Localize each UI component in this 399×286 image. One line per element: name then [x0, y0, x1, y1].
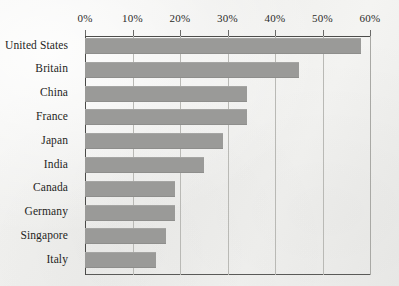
category-label: India	[44, 158, 68, 170]
bar-row	[85, 252, 156, 268]
bar	[85, 133, 223, 149]
bar-row	[85, 109, 247, 125]
category-label: France	[36, 110, 68, 122]
category-label: Germany	[25, 205, 69, 217]
x-tick-label: 0%	[77, 12, 92, 24]
category-label: Singapore	[20, 229, 68, 241]
gridline-50pct	[323, 36, 324, 275]
bar-row	[85, 181, 175, 197]
bar	[85, 252, 156, 268]
bar	[85, 181, 175, 197]
bar-row	[85, 228, 166, 244]
bar	[85, 109, 247, 125]
bar-row	[85, 38, 361, 54]
category-label: China	[40, 86, 68, 98]
category-label: Italy	[46, 253, 68, 265]
bar	[85, 62, 299, 78]
bar-row	[85, 86, 247, 102]
bar-row	[85, 205, 175, 221]
gridline-60pct	[370, 36, 371, 275]
plot-area	[85, 36, 370, 275]
bar-row	[85, 157, 204, 173]
category-label: Britain	[35, 62, 68, 74]
bar	[85, 228, 166, 244]
category-label: United States	[5, 39, 68, 51]
x-tick-label: 50%	[312, 12, 333, 24]
x-tick-label: 30%	[217, 12, 238, 24]
bar	[85, 205, 175, 221]
bar	[85, 86, 247, 102]
bar	[85, 38, 361, 54]
bar-row	[85, 133, 223, 149]
category-label: Canada	[33, 181, 68, 193]
x-tick-label: 60%	[360, 12, 381, 24]
x-tick-label: 20%	[170, 12, 191, 24]
bar-row	[85, 62, 299, 78]
category-label: Japan	[41, 134, 68, 146]
bar	[85, 157, 204, 173]
x-tick-label: 40%	[265, 12, 286, 24]
x-tick-label: 10%	[122, 12, 143, 24]
horizontal-bar-chart: 0%10%20%30%40%50%60% United StatesBritai…	[0, 0, 399, 286]
